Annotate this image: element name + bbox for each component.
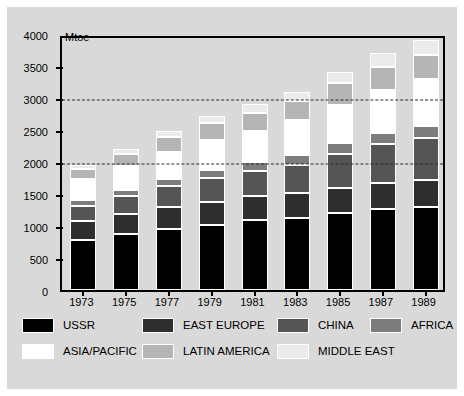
bar-segment — [113, 196, 139, 214]
bar-segment — [199, 178, 225, 202]
chart-legend: USSREAST EUROPECHINAAFRICA ASIA/PACIFICL… — [22, 312, 442, 364]
y-axis-tick-label: 2500 — [8, 126, 48, 138]
legend-label: LATIN AMERICA — [183, 345, 270, 357]
bar-segment — [70, 206, 96, 221]
y-axis-tick-label: 3000 — [8, 94, 48, 106]
bar-segment — [284, 193, 310, 218]
bar-segment — [156, 137, 182, 152]
bar-1983 — [284, 92, 310, 290]
bar-segment — [199, 170, 225, 178]
x-axis-tick-label: 1983 — [272, 296, 318, 308]
x-axis-tick-label: 1985 — [315, 296, 361, 308]
bar-segment — [413, 126, 439, 138]
bar-segment — [413, 79, 439, 125]
bar-segment — [370, 183, 396, 209]
legend-swatch — [142, 344, 174, 359]
bar-segment — [113, 166, 139, 190]
bar-segment — [284, 120, 310, 155]
legend-item[interactable]: AFRICA — [370, 312, 453, 338]
bar-1987 — [370, 53, 396, 290]
y-axis-tick-label: 3500 — [8, 62, 48, 74]
bar-segment — [199, 202, 225, 225]
bar-1985 — [327, 72, 353, 290]
legend-item[interactable]: LATIN AMERICA — [142, 338, 270, 364]
legend-swatch — [277, 318, 309, 333]
legend-label: USSR — [63, 319, 95, 331]
bar-segment — [284, 101, 310, 120]
legend-row-2: ASIA/PACIFICLATIN AMERICAMIDDLE EAST — [22, 338, 442, 364]
x-axis-tick-label: 1975 — [101, 296, 147, 308]
legend-row-1: USSREAST EUROPECHINAAFRICA — [22, 312, 442, 338]
bar-1975 — [113, 149, 139, 290]
bar-segment — [242, 104, 268, 112]
legend-swatch — [22, 318, 54, 333]
x-axis-tick-label: 1979 — [187, 296, 233, 308]
bar-segment — [327, 188, 353, 214]
y-axis-tick-label: 1500 — [8, 190, 48, 202]
bar-segment — [413, 180, 439, 207]
bar-segment — [199, 140, 225, 170]
bar-segment — [113, 214, 139, 234]
legend-swatch — [142, 318, 174, 333]
y-axis-tick-label: 0 — [8, 286, 48, 298]
bar-segment — [156, 152, 182, 179]
legend-item[interactable]: MIDDLE EAST — [277, 338, 395, 364]
bar-segment — [242, 131, 268, 162]
bar-segment — [370, 67, 396, 91]
gridline — [62, 164, 443, 165]
bar-segment — [70, 240, 96, 290]
legend-swatch — [22, 344, 54, 359]
bar-segment — [70, 179, 96, 200]
legend-label: CHINA — [318, 319, 354, 331]
bar-segment — [413, 40, 439, 55]
bar-segment — [242, 113, 268, 131]
y-axis-tick-mark — [56, 259, 63, 261]
bar-1979 — [199, 116, 225, 290]
legend-label: MIDDLE EAST — [318, 345, 395, 357]
y-axis-tick-label: 500 — [8, 254, 48, 266]
y-axis-tick-mark — [56, 227, 63, 229]
y-axis-tick-mark — [56, 195, 63, 197]
bar-1973 — [70, 165, 96, 290]
legend-item[interactable]: EAST EUROPE — [142, 312, 265, 338]
bar-segment — [370, 90, 396, 132]
legend-item[interactable]: CHINA — [277, 312, 354, 338]
bar-segment — [70, 169, 96, 179]
bar-segment — [156, 229, 182, 290]
x-axis-tick-label: 1987 — [358, 296, 404, 308]
y-axis-tick-label: 4000 — [8, 30, 48, 42]
x-axis-tick-label: 1989 — [401, 296, 447, 308]
bar-segment — [242, 171, 268, 196]
bar-segment — [327, 72, 353, 84]
bar-segment — [327, 83, 353, 105]
x-axis-tick-label: 1973 — [58, 296, 104, 308]
bar-segment — [413, 55, 439, 80]
legend-item[interactable]: ASIA/PACIFIC — [22, 338, 137, 364]
bar-segment — [156, 186, 182, 207]
bar-segment — [199, 225, 225, 290]
legend-item[interactable]: USSR — [22, 312, 95, 338]
bar-segment — [327, 213, 353, 290]
bar-segment — [413, 138, 439, 180]
bar-segment — [242, 196, 268, 220]
legend-label: EAST EUROPE — [183, 319, 265, 331]
y-axis-tick-mark — [56, 67, 63, 69]
gridline — [62, 100, 443, 101]
bar-segment — [199, 123, 225, 140]
bar-segment — [156, 207, 182, 229]
bar-1977 — [156, 131, 182, 290]
bar-segment — [199, 116, 225, 123]
y-axis-tick-label: 2000 — [8, 158, 48, 170]
legend-swatch — [370, 318, 402, 333]
bar-segment — [327, 143, 353, 154]
bar-segment — [370, 133, 396, 145]
legend-label: AFRICA — [411, 319, 453, 331]
bar-segment — [284, 218, 310, 290]
bar-segment — [370, 209, 396, 290]
x-axis-tick-label: 1977 — [144, 296, 190, 308]
bar-segment — [284, 165, 310, 193]
bar-segment — [413, 207, 439, 290]
y-axis-tick-mark — [56, 131, 63, 133]
bar-segment — [113, 234, 139, 290]
legend-swatch — [277, 344, 309, 359]
